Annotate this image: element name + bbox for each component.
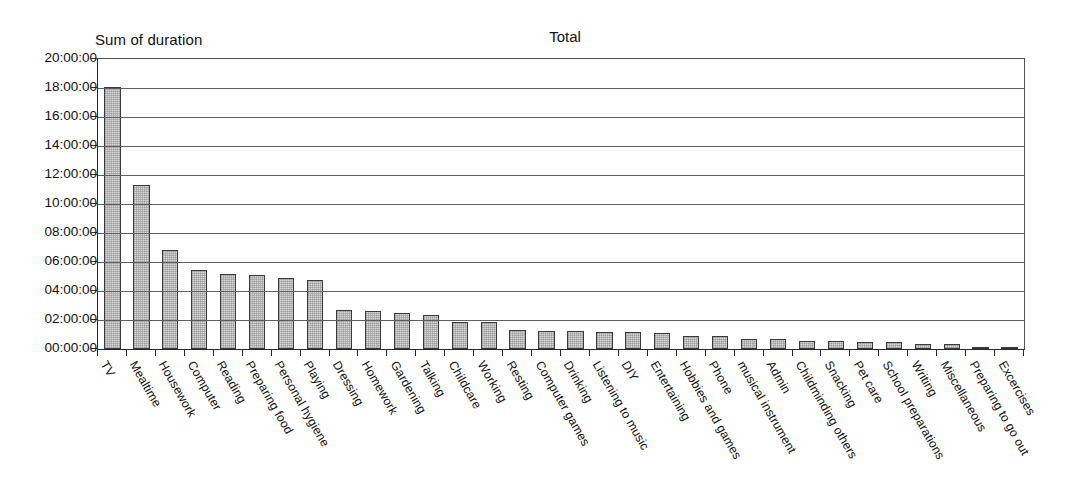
x-axis-tick-mark [647,349,648,356]
bar [278,278,294,349]
x-axis-tick-mark [502,349,503,356]
gridline [98,320,1024,321]
x-axis-tick-mark [329,349,330,356]
x-axis-tick-mark [763,349,764,356]
bar [770,339,786,349]
x-axis-tick-mark [415,349,416,356]
x-axis-tick-mark [97,349,98,356]
bar [915,344,931,349]
x-axis-tick-mark [618,349,619,356]
bar [104,87,120,349]
x-axis-tick-mark [994,349,995,356]
x-axis-tick-label: Phone [706,359,735,397]
gridline [98,233,1024,234]
chart-title: Total [0,28,1078,45]
x-axis-tick-mark [878,349,879,356]
y-axis-tick-label: 02:00:00 [9,312,97,326]
x-axis-tick-label: musical instrument [735,359,798,456]
x-axis-tick-mark [357,349,358,356]
bar [481,322,497,349]
x-axis-tick-mark [386,349,387,356]
bar [394,313,410,349]
y-axis-tick-label: 18:00:00 [9,80,97,94]
bar [133,185,149,349]
x-axis-tick-mark [936,349,937,356]
bar [712,336,728,349]
gridline [98,146,1024,147]
bar [683,336,699,349]
bar [944,344,960,349]
x-axis-tick-label: Talking [417,359,448,399]
x-axis-tick-mark [820,349,821,356]
y-axis: 20:00:0018:00:0016:00:0014:00:0012:00:00… [0,0,97,477]
x-axis-tick-mark [444,349,445,356]
y-axis-tick-label: 20:00:00 [9,51,97,65]
bar [972,347,988,349]
bar [625,332,641,349]
x-axis-tick-label: Writing [908,359,939,399]
x-axis-tick-label: DIY [619,359,641,384]
x-axis-tick-label: Admin [764,359,793,396]
y-axis-tick-label: 12:00:00 [9,167,97,181]
x-axis-tick-mark [792,349,793,356]
x-axis-tick-mark [271,349,272,356]
bar [509,330,525,349]
bar [220,274,236,349]
y-axis-tick-label: 14:00:00 [9,138,97,152]
x-axis-tick-mark [1023,349,1024,356]
x-axis-tick-mark [155,349,156,356]
x-axis-tick-mark [473,349,474,356]
x-axis-tick-mark [589,349,590,356]
y-axis-tick-label: 10:00:00 [9,196,97,210]
x-axis-tick-mark [560,349,561,356]
bar [336,310,352,349]
x-axis-tick-mark [213,349,214,356]
y-axis-tick-label: 04:00:00 [9,283,97,297]
bar [249,275,265,349]
x-axis-tick-mark [849,349,850,356]
y-axis-tick-label: 08:00:00 [9,225,97,239]
x-axis-tick-mark [242,349,243,356]
bar [365,311,381,349]
bar [654,333,670,349]
bar [162,250,178,349]
bar [857,342,873,349]
bar [596,332,612,349]
gridline [98,88,1024,89]
bar [1001,347,1017,349]
x-axis-tick-label: Listening to music [590,359,651,452]
x-axis-tick-mark [300,349,301,356]
plot-area [97,58,1025,350]
y-axis-tick-label: 16:00:00 [9,109,97,123]
x-axis-tick-mark [907,349,908,356]
x-axis-tick-mark [676,349,677,356]
x-axis-tick-label: Playing [301,359,333,401]
bar-chart: Sum of duration Total 20:00:0018:00:0016… [0,0,1078,477]
bar [191,270,207,349]
x-axis-tick-mark [531,349,532,356]
y-axis-tick-label: 00:00:00 [9,341,97,355]
bar [741,339,757,349]
y-axis-tick-label: 06:00:00 [9,254,97,268]
x-axis-tick-label: TV [98,359,117,379]
gridline [98,204,1024,205]
x-axis-tick-mark [126,349,127,356]
bar [799,341,815,349]
x-axis-tick-mark [965,349,966,356]
x-axis-tick-mark [184,349,185,356]
gridline [98,291,1024,292]
bar [828,341,844,349]
bar [886,342,902,349]
gridline [98,175,1024,176]
x-axis-tick-mark [705,349,706,356]
gridline [98,262,1024,263]
gridline [98,117,1024,118]
bar [567,331,583,349]
x-axis-tick-mark [734,349,735,356]
bar [452,322,468,349]
bar [538,331,554,349]
